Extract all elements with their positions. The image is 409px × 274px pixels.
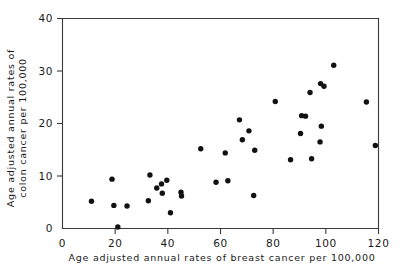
- data-point: [303, 113, 308, 118]
- y-tick-label: 20: [38, 117, 53, 129]
- data-point: [288, 157, 293, 162]
- x-tick-label: 100: [315, 237, 337, 249]
- data-point: [237, 117, 242, 122]
- x-tick-label: 0: [59, 237, 66, 249]
- data-point: [317, 139, 322, 144]
- data-point: [159, 181, 164, 186]
- data-point: [160, 191, 165, 196]
- plot-canvas: 020406080100120010203040 Age adjusted an…: [0, 0, 409, 274]
- data-point: [298, 131, 303, 136]
- y-tick-label: 10: [38, 170, 53, 182]
- data-point: [331, 63, 336, 68]
- tick-marks: [57, 19, 379, 235]
- x-tick-label: 40: [161, 237, 176, 249]
- data-point: [115, 224, 120, 229]
- data-point: [273, 99, 278, 104]
- data-point: [364, 99, 369, 104]
- x-tick-label: 60: [213, 237, 228, 249]
- data-point: [246, 128, 251, 133]
- x-tick-label: 120: [368, 237, 390, 249]
- data-point: [319, 123, 324, 128]
- y-axis-label-line1: Age adjusted annual rates of: [5, 49, 16, 207]
- data-point: [146, 198, 151, 203]
- data-point: [213, 180, 218, 185]
- data-point: [154, 185, 159, 190]
- data-point: [164, 178, 169, 183]
- y-tick-label: 40: [38, 12, 53, 24]
- data-point: [198, 146, 203, 151]
- axis-frame: [63, 19, 379, 229]
- data-point: [307, 90, 312, 95]
- data-point: [89, 199, 94, 204]
- y-axis-label-line2: colon cancer per 100,000: [17, 58, 28, 198]
- data-point: [111, 203, 116, 208]
- data-point: [168, 210, 173, 215]
- x-tick-label: 20: [108, 237, 123, 249]
- data-point: [124, 203, 129, 208]
- data-point: [252, 148, 257, 153]
- data-point-series: [89, 63, 378, 230]
- x-axis-label: Age adjusted annual rates of breast canc…: [68, 252, 375, 263]
- scatter-plot-figure: 020406080100120010203040 Age adjusted an…: [0, 0, 409, 274]
- tick-labels: 020406080100120010203040: [38, 12, 389, 248]
- data-point: [309, 156, 314, 161]
- data-point: [373, 143, 378, 148]
- y-tick-label: 0: [46, 222, 53, 234]
- y-tick-label: 30: [38, 65, 53, 77]
- data-point: [109, 176, 114, 181]
- data-point: [225, 178, 230, 183]
- data-point: [147, 172, 152, 177]
- data-point: [251, 193, 256, 198]
- x-tick-label: 80: [266, 237, 281, 249]
- data-point: [179, 193, 184, 198]
- data-point: [240, 137, 245, 142]
- data-point: [321, 84, 326, 89]
- data-point: [223, 150, 228, 155]
